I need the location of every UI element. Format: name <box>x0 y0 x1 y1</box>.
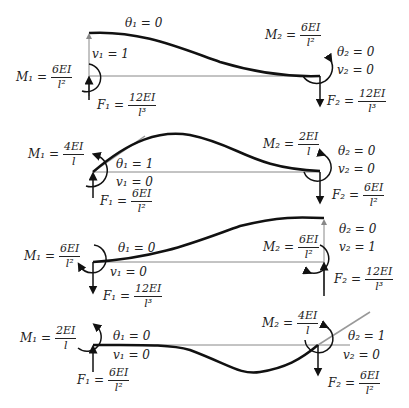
case3-theta1-label: θ₁ = 0 <box>118 242 155 254</box>
beam-shape-function-diagram: θ₁ = 0 v₁ = 1 M₁ = 6EIl² F₁ = 12EIl³ M₂ … <box>0 0 409 408</box>
case1-theta1-label: θ₁ = 0 <box>125 17 162 29</box>
M1-fraction: 6EIl² <box>51 64 72 90</box>
case2-F2-equation: F₂ = 6EIl² <box>332 182 384 208</box>
case1-F2-equation: F₂ = 12EIl³ <box>327 88 386 114</box>
case2-F1-equation: F₁ = 6EIl² <box>100 188 152 214</box>
case4-theta2-label: θ₂ = 1 <box>348 330 385 342</box>
case3-v2-label: v₂ = 1 <box>339 241 376 253</box>
case1-v2-label: v₂ = 0 <box>337 64 374 76</box>
case4-F2-equation: F₂ = 6EIl² <box>328 370 380 396</box>
M1-lhs: M₁ = <box>16 70 47 84</box>
case2-M1-equation: M₁ = 4EIl <box>28 141 84 167</box>
case1-F1-equation: F₁ = 12EIl³ <box>97 92 156 118</box>
case2-v2-label: v₂ = 0 <box>338 163 375 175</box>
case4-theta1-label: θ₁ = 0 <box>113 330 150 342</box>
case2-theta2-label: θ₂ = 0 <box>338 145 375 157</box>
case4-v2-label: v₂ = 0 <box>343 349 380 361</box>
case1-M2-equation: M₂ = 6EIl² <box>265 22 321 48</box>
case1-theta2-label: θ₂ = 0 <box>337 46 374 58</box>
case3-M1-equation: M₁ = 6EIl² <box>24 243 80 269</box>
case3-F1-equation: F₁ = 12EIl³ <box>103 283 162 309</box>
case4-M2-equation: M₂ = 4EIl <box>262 310 318 336</box>
case3-theta2-label: θ₂ = 0 <box>339 223 376 235</box>
case4-M1-equation: M₁ = 2EIl <box>20 325 76 351</box>
case2-theta1-label: θ₁ = 1 <box>116 158 153 170</box>
case2-M2-equation: M₂ = 2EIl <box>263 131 319 157</box>
case3-M2-equation: M₂ = 6EIl² <box>263 234 319 260</box>
case1-M1-equation: M₁ = 6EIl² <box>16 64 72 90</box>
case4-F1-equation: F₁ = 6EIl² <box>77 367 129 393</box>
case3-F2-equation: F₂ = 12EIl³ <box>334 266 393 292</box>
case1-v1-label: v₁ = 1 <box>92 48 129 60</box>
case3-v1-label: v₁ = 0 <box>110 266 147 278</box>
case4-v1-label: v₁ = 0 <box>113 349 150 361</box>
